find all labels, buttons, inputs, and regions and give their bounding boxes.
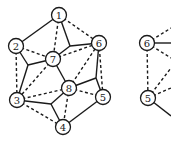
node-label: 5 (145, 93, 151, 104)
left-node-8: 8 (62, 81, 77, 96)
left-node-5: 5 (96, 90, 111, 105)
node-label: 3 (14, 95, 20, 106)
left-node-7: 7 (46, 52, 61, 67)
left-node-2: 2 (9, 39, 24, 54)
left-node-3: 3 (10, 93, 25, 108)
node-label: 8 (66, 83, 72, 94)
graph-diagram: 12678354 65 (0, 0, 171, 143)
left-graph-edges (16, 15, 103, 127)
node-label: 5 (100, 92, 106, 103)
node-label: 4 (60, 122, 66, 133)
edge-7-3-dashed (17, 59, 53, 100)
right-node-5: 5 (141, 91, 156, 106)
right-node-6: 6 (140, 36, 155, 51)
node-label: 1 (56, 10, 62, 21)
left-node-4: 4 (56, 120, 71, 135)
edge-6-5-dashed (147, 43, 148, 98)
node-label: 6 (96, 38, 102, 49)
node-label: 6 (144, 38, 150, 49)
node-label: 2 (13, 41, 19, 52)
left-node-1: 1 (52, 8, 67, 23)
left-node-6: 6 (92, 36, 107, 51)
node-label: 7 (50, 54, 56, 65)
